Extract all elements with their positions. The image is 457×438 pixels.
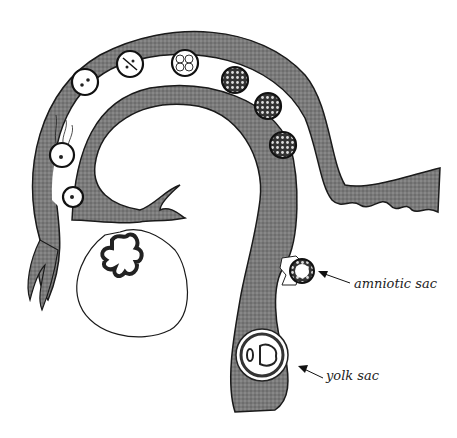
two-cell-icon [117, 51, 143, 77]
arrow-yolk [298, 365, 323, 378]
amniotic-sac-icon [280, 256, 314, 285]
zygote-icon [72, 69, 98, 95]
four-cell-icon [172, 50, 198, 76]
blastocyst-icon [270, 132, 296, 158]
amniotic-sac-label: amniotic sac [354, 276, 437, 291]
yolk-sac-icon [236, 329, 288, 381]
eight-cell-icon [222, 67, 248, 93]
yolk-sac-label: yolk sac [326, 368, 379, 383]
illustration [0, 0, 457, 438]
ovum-icon [63, 187, 83, 207]
morula-icon [255, 93, 281, 119]
fimbriae [28, 240, 58, 310]
arrow-amniotic [318, 271, 350, 283]
